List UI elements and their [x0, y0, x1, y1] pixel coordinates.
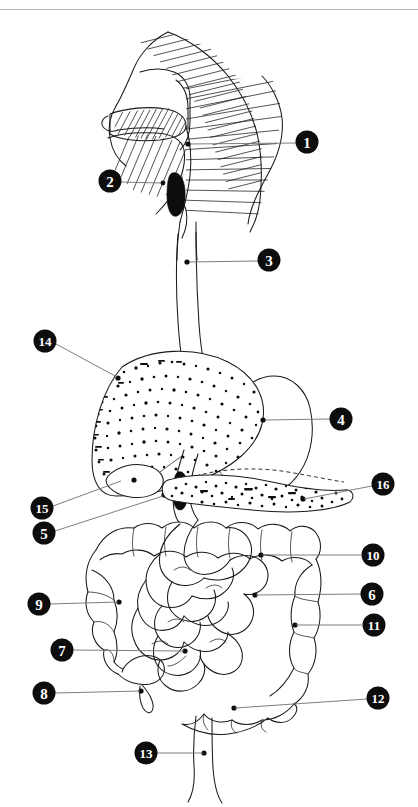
leader-14: [56, 344, 117, 377]
marker-8-text: 8: [40, 686, 48, 702]
marker-5-text: 5: [40, 526, 48, 542]
ileum-coil-11: [184, 632, 228, 652]
sigmoid-colon-outline: [182, 704, 297, 735]
marker-14[interactable]: 14: [34, 330, 57, 353]
leader-3: [188, 261, 258, 262]
digestive-system-figure: 1 2 3 4 5: [0, 10, 418, 807]
marker-3[interactable]: 3: [258, 249, 281, 272]
marker-1-text: 1: [303, 135, 311, 151]
marker-12[interactable]: 12: [367, 687, 390, 710]
marker-2-text: 2: [106, 174, 114, 190]
leader-7: [73, 650, 184, 651]
pharynx-anchor-dot: [185, 141, 190, 146]
marker-4-text: 4: [337, 412, 345, 428]
leader-8: [55, 691, 140, 693]
ileum-coil-2: [168, 582, 216, 621]
marker-8[interactable]: 8: [33, 682, 56, 705]
ileum-coil-7: [184, 602, 228, 626]
leader-6: [256, 594, 361, 595]
ileum-coil-4: [208, 594, 254, 634]
marker-16-text: 16: [377, 477, 391, 492]
marker-13[interactable]: 13: [135, 742, 158, 765]
marker-10-text: 10: [367, 548, 380, 563]
neck-front-contour: [248, 76, 282, 224]
leader-12: [235, 699, 367, 708]
mesentery-line-4: [210, 639, 226, 642]
gallbladder-anchor-dot: [131, 477, 136, 482]
marker-9[interactable]: 9: [28, 593, 51, 616]
marker-14-text: 14: [39, 334, 53, 349]
marker-7-text: 7: [58, 643, 66, 659]
marker-16[interactable]: 16: [372, 473, 395, 496]
head-and-neck-group: [100, 10, 300, 260]
marker-15[interactable]: 15: [31, 497, 54, 520]
header-strip: [0, 0, 418, 9]
epiglottis-anchor-dot: [161, 181, 166, 186]
marker-6[interactable]: 6: [361, 583, 384, 606]
marker-3-text: 3: [265, 253, 273, 269]
stomach-anchor-dot: [260, 417, 265, 422]
marker-15-text: 15: [36, 501, 50, 516]
marker-4[interactable]: 4: [330, 408, 353, 431]
digestive-system-svg: 1 2 3 4 5: [0, 10, 418, 807]
marker-5[interactable]: 5: [33, 522, 56, 545]
marker-2[interactable]: 2: [99, 170, 122, 193]
chin-outline: [109, 106, 126, 166]
ileum-coil-8: [200, 634, 242, 674]
marker-12-text: 12: [372, 691, 385, 706]
marker-1[interactable]: 1: [296, 131, 319, 154]
marker-13-text: 13: [140, 746, 154, 761]
marker-7[interactable]: 7: [51, 639, 74, 662]
oral-cavity-inner: [118, 128, 164, 130]
marker-6-text: 6: [368, 587, 376, 603]
mesentery-line-2: [206, 585, 222, 588]
epiglottis-shape: [167, 173, 185, 217]
diagram-page: 1 2 3 4 5: [0, 0, 418, 807]
esophagus-anchor-dot: [184, 259, 189, 264]
ileum-coil-6: [155, 606, 201, 648]
ileum-coil-3: [192, 568, 234, 599]
marker-11-text: 11: [368, 618, 380, 633]
marker-10[interactable]: 10: [362, 544, 385, 567]
marker-9-text: 9: [35, 597, 43, 613]
marker-11[interactable]: 11: [363, 614, 386, 637]
